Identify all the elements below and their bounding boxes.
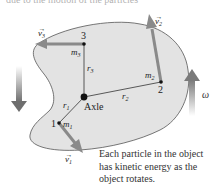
particle-1-number: 1 (51, 118, 56, 129)
axle-label: Axle (84, 101, 104, 112)
particle-3-number: 3 (81, 30, 86, 41)
caption: Each particle in the object has kinetic … (99, 148, 217, 186)
particle-3-point (82, 42, 86, 46)
omega-label: ω (202, 89, 209, 100)
caption-line: Each particle in the object (99, 148, 217, 161)
rigid-body-shape (30, 22, 189, 150)
caption-line: has kinetic energy as the (99, 161, 217, 174)
caption-line: object rotates. (99, 173, 217, 186)
particle-1-point (57, 121, 61, 125)
vector-arrow-2-icon: → (156, 13, 163, 21)
vector-arrow-3-icon: → (39, 25, 46, 33)
particle-2-number: 2 (158, 84, 163, 95)
vector-arrow-1-icon: → (66, 151, 73, 159)
rotation-arrow-left-icon (11, 66, 27, 112)
axle-point (81, 94, 88, 101)
